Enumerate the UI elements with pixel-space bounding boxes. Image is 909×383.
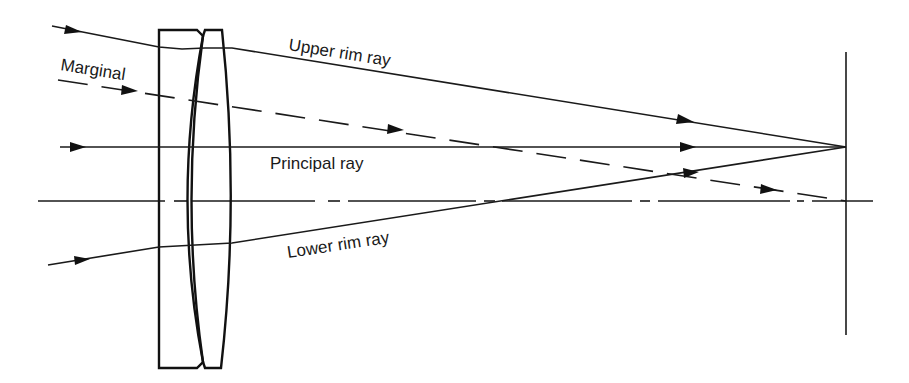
label-marginal: Marginal — [59, 55, 126, 84]
optical-ray-diagram: Upper rim ray Marginal Principal ray Low… — [0, 0, 909, 383]
label-lower-rim-ray: Lower rim ray — [286, 228, 391, 262]
arrow-icon — [70, 142, 86, 152]
marginal-ray — [58, 80, 846, 201]
lens-cemented-surface — [192, 36, 204, 362]
doublet-lens — [159, 30, 231, 368]
arrow-icon — [387, 124, 404, 134]
arrow-icon — [64, 25, 82, 34]
arrow-icon — [121, 85, 138, 95]
arrow-icon — [74, 256, 90, 265]
lens-element-2 — [203, 30, 231, 368]
arrow-icon — [760, 184, 777, 194]
principal-ray — [60, 142, 846, 152]
upper-rim-ray — [52, 25, 846, 147]
arrow-icon — [680, 142, 696, 152]
label-principal-ray: Principal ray — [270, 154, 364, 173]
lower-rim-ray — [48, 147, 846, 265]
